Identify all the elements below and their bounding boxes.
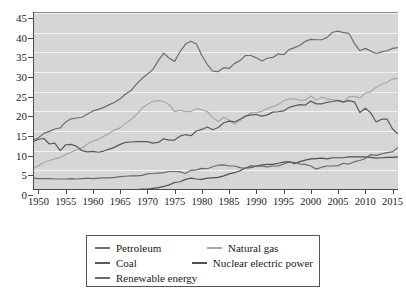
x-axis-tick [311, 190, 312, 194]
x-axis-tick-label: 1950 [28, 196, 49, 208]
legend-item-label: Petroleum [116, 242, 161, 254]
x-axis-tick-label: 1960 [82, 196, 103, 208]
series-line [33, 78, 398, 168]
x-axis-tick-label: 2005 [328, 196, 349, 208]
legend-item-label: Natural gas [228, 242, 278, 254]
series-line [33, 31, 398, 140]
y-axis-tick-label: 20 [16, 111, 27, 122]
clipped-caption [14, 0, 394, 3]
x-axis-tick [284, 190, 285, 194]
x-axis-tick [338, 190, 339, 194]
x-axis-tick-label: 1965 [110, 196, 131, 208]
x-axis-tick-label: 1955 [55, 196, 76, 208]
legend-item: Renewable energy [95, 272, 207, 284]
y-axis-tick [28, 38, 33, 39]
y-axis-tick-label: 25 [16, 91, 27, 102]
x-axis-tick-label: 1980 [191, 196, 212, 208]
x-axis-tick-label: 1990 [246, 196, 267, 208]
y-axis-tick-label: 45 [16, 13, 27, 24]
y-axis-tick-label: 15 [16, 131, 27, 142]
legend-line-swatch [207, 247, 222, 249]
y-axis-tick-label: 10 [16, 150, 27, 161]
legend-item: Natural gas [207, 242, 278, 254]
x-axis-tick [147, 190, 148, 194]
x-axis-tick [93, 190, 94, 194]
x-axis-tick [120, 190, 121, 194]
x-axis-tick [365, 190, 366, 194]
x-axis-tick-label: 2010 [355, 196, 376, 208]
legend-row: PetroleumNatural gas [95, 240, 313, 255]
y-axis-tick [28, 116, 33, 117]
legend-item: Petroleum [95, 242, 207, 254]
x-axis-tick-label: 2015 [382, 196, 403, 208]
legend-row: CoalNuclear electric power [95, 255, 313, 270]
legend-row: Renewable energy [95, 270, 313, 285]
x-axis-tick-label: 1970 [137, 196, 158, 208]
legend-item-label: Renewable energy [116, 272, 197, 284]
legend-line-swatch [95, 277, 110, 279]
x-axis-tick-label: 1995 [273, 196, 294, 208]
y-axis-labels: 051015202530354045 [0, 6, 33, 196]
plot-area [33, 12, 398, 190]
series-line [33, 157, 398, 190]
x-axis-tick-label: 1975 [164, 196, 185, 208]
y-axis-tick-label: 40 [16, 32, 27, 43]
x-axis-tick [175, 190, 176, 194]
y-axis-tick [28, 97, 33, 98]
x-axis-tick-label: 2000 [300, 196, 321, 208]
y-axis-tick-label: 5 [22, 170, 28, 181]
x-axis-tick [202, 190, 203, 194]
x-axis-tick [256, 190, 257, 194]
y-axis-tick-label: 30 [16, 72, 27, 83]
chart-legend: PetroleumNatural gasCoalNuclear electric… [86, 235, 320, 287]
legend-line-swatch [95, 262, 110, 264]
x-axis-labels: 1950195519601965197019751980198519901995… [0, 192, 406, 210]
legend-item-label: Coal [116, 257, 137, 269]
legend-line-swatch [95, 247, 110, 249]
y-axis-tick [28, 57, 33, 58]
x-axis-tick [66, 190, 67, 194]
series-lines [33, 13, 398, 190]
x-axis-tick [38, 190, 39, 194]
y-axis-tick-label: 35 [16, 52, 27, 63]
x-axis-tick-label: 1985 [219, 196, 240, 208]
legend-line-swatch [192, 262, 207, 264]
x-axis-tick [393, 190, 394, 194]
x-axis-tick [229, 190, 230, 194]
chart-page: 051015202530354045 195019551960196519701… [0, 0, 406, 297]
y-axis-tick [28, 156, 33, 157]
x-axis-line [33, 189, 398, 190]
y-axis-tick [28, 175, 33, 176]
y-axis-tick [28, 18, 33, 19]
y-axis-line [33, 12, 34, 190]
legend-item-label: Nuclear electric power [213, 257, 313, 269]
legend-item: Nuclear electric power [192, 257, 313, 269]
legend-item: Coal [95, 257, 192, 269]
y-axis-tick [28, 136, 33, 137]
line-chart: 051015202530354045 195019551960196519701… [0, 6, 406, 210]
y-axis-tick [28, 77, 33, 78]
